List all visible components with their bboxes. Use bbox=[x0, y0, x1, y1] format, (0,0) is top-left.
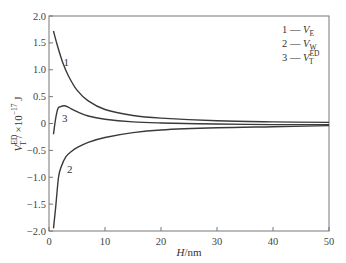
curve-label-1: 1 bbox=[64, 56, 69, 68]
y-tick-label: −0.5 bbox=[27, 145, 46, 156]
y-tick-label: 0 bbox=[41, 118, 46, 129]
y-tick-label: 1.5 bbox=[33, 37, 46, 48]
legend-item-1: 1 — VE bbox=[282, 24, 314, 38]
y-axis-label: VEDT / ×10−17 J bbox=[10, 96, 28, 152]
x-axis: 01020304050 bbox=[46, 227, 334, 247]
y-tick-label: −1.5 bbox=[27, 199, 46, 210]
y-axis-label-text: VEDT / ×10−17 J bbox=[10, 96, 28, 152]
x-tick-label: 40 bbox=[268, 236, 279, 247]
y-tick-label: 0.5 bbox=[33, 91, 46, 102]
x-axis-label: H/nm bbox=[175, 246, 202, 258]
x-tick-label: 0 bbox=[46, 236, 51, 247]
x-tick-label: 30 bbox=[212, 236, 223, 247]
curve-label-3: 3 bbox=[62, 112, 68, 124]
y-tick-label: 2.0 bbox=[33, 11, 46, 22]
y-tick-label: −2.0 bbox=[27, 226, 46, 237]
y-tick-label: 1.0 bbox=[33, 64, 46, 75]
x-tick-label: 20 bbox=[156, 236, 167, 247]
legend-item-3: 3 — VEDT bbox=[282, 49, 320, 66]
curve-label-2: 2 bbox=[67, 163, 73, 175]
chart: 01020304050 2.01.51.00.50−0.5−1.0−1.5−2.… bbox=[0, 0, 346, 263]
curve-2 bbox=[53, 126, 329, 229]
legend: 1 — VE2 — VW3 — VEDT bbox=[282, 24, 320, 66]
x-tick-label: 10 bbox=[100, 236, 111, 247]
y-tick-label: −1.0 bbox=[27, 172, 46, 183]
x-tick-label: 50 bbox=[324, 236, 335, 247]
